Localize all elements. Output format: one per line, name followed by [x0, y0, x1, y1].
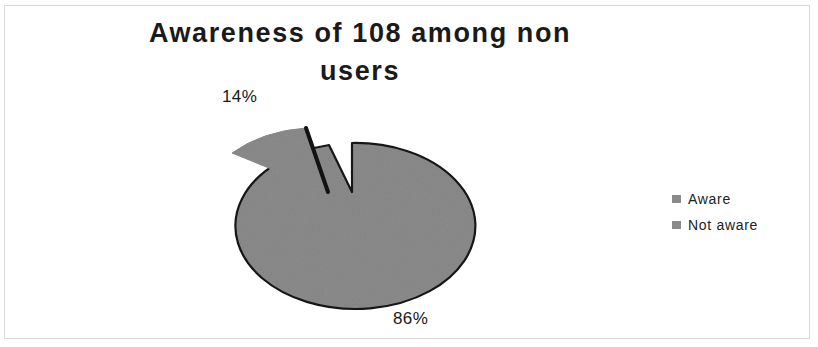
- data-label-not-aware: 86%: [393, 309, 428, 329]
- legend-item-not-aware[interactable]: Not aware: [672, 212, 812, 238]
- chart-legend: Aware Not aware: [672, 186, 812, 238]
- legend-swatch-icon: [672, 221, 681, 229]
- data-label-aware: 14%: [222, 87, 257, 107]
- pie-graphic: [210, 95, 500, 330]
- plot-area: 14% 86%: [0, 0, 818, 347]
- legend-label-not-aware: Not aware: [688, 217, 758, 233]
- pie-chart-figure: Awareness of 108 among non users: [0, 0, 818, 347]
- legend-item-aware[interactable]: Aware: [672, 186, 812, 212]
- legend-label-aware: Aware: [688, 191, 731, 207]
- legend-swatch-icon: [672, 195, 681, 203]
